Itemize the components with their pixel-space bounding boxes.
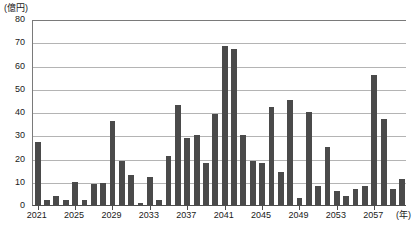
bar [212,114,218,205]
plot-area [32,20,406,206]
gridline [33,183,406,184]
y-axis-tick-label: 60 [15,62,25,71]
y-axis-tick-label: 30 [15,131,25,140]
bar [297,198,303,205]
x-axis-tick-label: 2029 [101,210,121,220]
bar [269,107,275,205]
bar [63,200,69,205]
bar [53,196,59,205]
bar [110,121,116,205]
bar [362,186,368,205]
bar [44,200,50,205]
bar [156,200,162,205]
bar [240,135,246,205]
x-axis-unit-label: (年) [396,210,411,220]
bar [390,189,396,205]
bar-chart: (億円) 01020304050607080 20212025202920332… [0,0,413,237]
x-axis-tick-label: 2049 [288,210,308,220]
y-axis-tick-labels: 01020304050607080 [0,20,28,206]
x-axis-tick-label: 2033 [139,210,159,220]
bar [315,186,321,205]
gridline [33,113,406,114]
x-axis-tick-label: 2041 [214,210,234,220]
bar [175,105,181,205]
x-axis-tick-labels: 2021202520292033203720412045204920532057 [32,210,413,226]
bar [138,203,144,205]
gridline [33,160,406,161]
x-axis-tick-label: 2025 [64,210,84,220]
gridline [33,67,406,68]
bar [287,100,293,205]
bar [184,138,190,205]
plot-inner [33,20,406,205]
y-axis-unit-label: (億円) [4,3,28,14]
y-axis-tick-label: 70 [15,38,25,47]
bar [371,75,377,205]
bar [399,179,405,205]
bar [334,191,340,205]
gridline [33,90,406,91]
gridline [33,20,406,21]
y-axis-tick-label: 80 [15,15,25,24]
y-axis-tick-label: 0 [20,201,25,210]
x-axis-tick-label: 2037 [176,210,196,220]
x-axis-tick-label: 2045 [251,210,271,220]
bar [119,161,125,205]
bar [35,142,41,205]
bar [259,163,265,205]
bar [278,172,284,205]
bar [91,184,97,205]
y-axis-tick-label: 20 [15,155,25,164]
bar [203,163,209,205]
gridline [33,43,406,44]
bar [353,189,359,205]
bar [128,175,134,205]
x-axis-tick-label: 2053 [326,210,346,220]
bar [72,182,78,205]
x-axis-tick-label: 2021 [27,210,47,220]
bar [231,49,237,205]
bar [100,183,106,205]
bar [250,161,256,205]
bar [325,147,331,205]
y-axis-tick-label: 10 [15,178,25,187]
bar [343,196,349,205]
bar [194,135,200,205]
y-axis-tick-label: 40 [15,108,25,117]
bar [222,46,228,205]
bar [82,200,88,205]
gridline [33,136,406,137]
bar [381,119,387,205]
bar [166,156,172,205]
y-axis-tick-label: 50 [15,85,25,94]
bar [147,177,153,205]
bar [306,112,312,205]
x-axis-tick-label: 2057 [363,210,383,220]
